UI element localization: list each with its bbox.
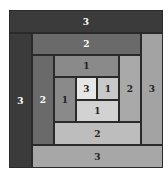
block-label: 3: [83, 84, 89, 94]
block-label: 1: [83, 61, 89, 71]
block-right-2: 2: [119, 55, 141, 122]
block-bottom-2: 2: [54, 122, 141, 145]
block-label: 3: [149, 84, 155, 94]
block-left-2: 2: [32, 55, 54, 145]
block-label: 3: [94, 152, 100, 162]
block-center-right-1: 1: [97, 77, 119, 100]
block-outer-top-3: 3: [9, 10, 163, 33]
block-left-1: 1: [54, 77, 76, 122]
log-cabin-diagram: 3 3 2 3 2 1 2 1 3 1 1 2 3: [0, 0, 168, 175]
block-top-1: 1: [54, 55, 119, 77]
block-label: 2: [94, 129, 100, 139]
block-label: 2: [127, 84, 133, 94]
block-label: 2: [40, 95, 46, 105]
block-center-3: 3: [76, 77, 97, 100]
block-label: 3: [83, 17, 89, 27]
block-label: 2: [83, 39, 89, 49]
block-label: 1: [105, 84, 111, 94]
block-outer-left-3: 3: [9, 33, 32, 168]
block-bottom-3: 3: [32, 145, 163, 168]
block-label: 1: [94, 106, 100, 116]
block-label: 3: [17, 96, 23, 106]
block-right-3: 3: [141, 33, 163, 145]
block-center-bottom-1: 1: [76, 100, 119, 122]
block-label: 1: [62, 95, 68, 105]
block-top-2: 2: [32, 33, 141, 55]
